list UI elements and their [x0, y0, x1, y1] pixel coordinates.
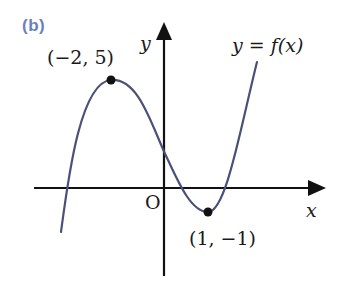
x-axis-label: x	[306, 201, 317, 220]
cubic-graph-figure: (b) (−2, 5) y y = f(x) O x (1, −1)	[0, 0, 348, 284]
max-point-label: (−2, 5)	[47, 48, 114, 67]
y-axis-label: y	[140, 34, 151, 53]
max-point-dot	[107, 76, 116, 85]
y-axis-arrow-icon	[156, 22, 172, 40]
min-point-label: (1, −1)	[189, 229, 256, 248]
curve-label: y = f(x)	[232, 36, 303, 55]
min-point-dot	[204, 208, 213, 217]
origin-label: O	[145, 193, 161, 212]
x-axis-arrow-icon	[308, 180, 326, 196]
